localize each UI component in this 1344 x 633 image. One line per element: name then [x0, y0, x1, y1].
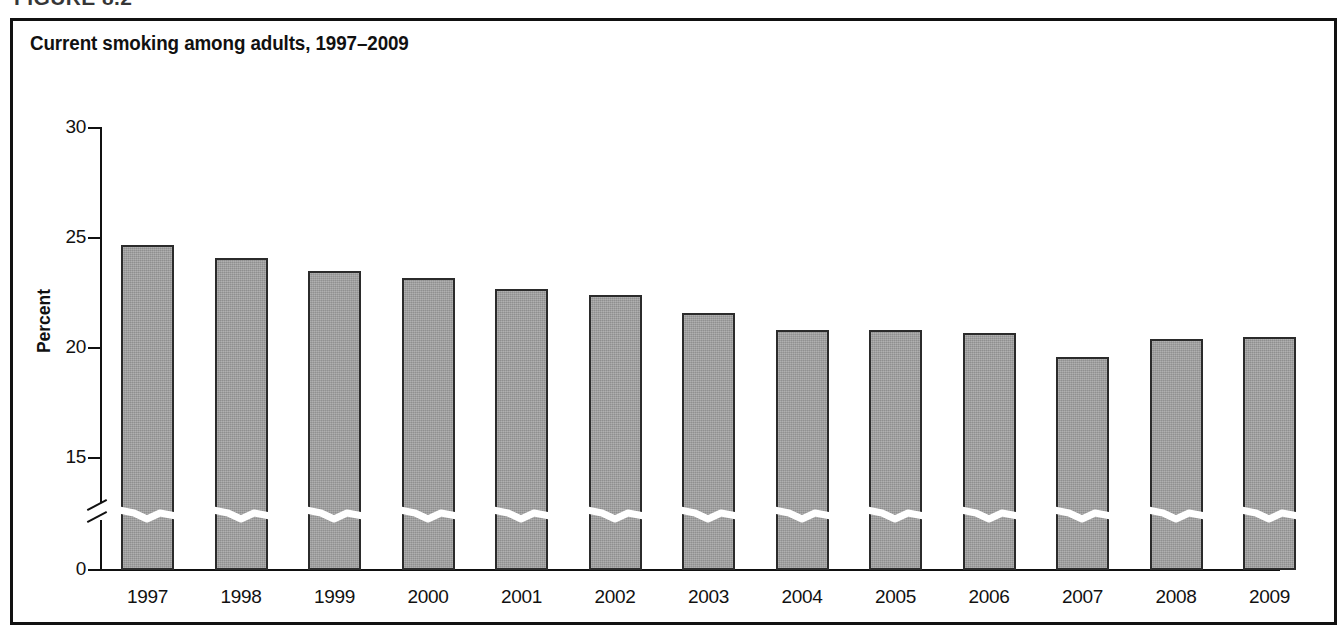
figure-number-heading: FIGURE 8.2 [14, 0, 132, 8]
chart-title: Current smoking among adults, 1997–2009 [30, 32, 409, 55]
figure-frame [10, 18, 1337, 625]
